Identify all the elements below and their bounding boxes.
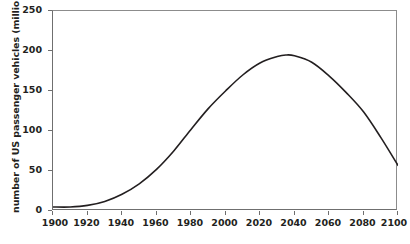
x-tick-2020 <box>259 211 260 215</box>
x-tick-label-2040: 2040 <box>280 218 306 228</box>
x-tick-2060 <box>328 211 329 215</box>
plot-area <box>52 10 397 210</box>
x-tick-label-2100: 2100 <box>381 218 407 228</box>
x-tick-2040 <box>294 211 295 215</box>
x-tick-1920 <box>87 211 88 215</box>
x-tick-label-1900: 1900 <box>42 218 68 228</box>
x-tick-label-1980: 1980 <box>177 218 203 228</box>
x-tick-label-2080: 2080 <box>349 218 375 228</box>
x-tick-1900 <box>52 211 53 215</box>
x-tick-label-1920: 1920 <box>73 218 99 228</box>
x-tick-label-2000: 2000 <box>211 218 237 228</box>
x-tick-label-1960: 1960 <box>142 218 168 228</box>
x-tick-2100 <box>397 211 398 215</box>
x-tick-label-2020: 2020 <box>246 218 272 228</box>
x-tick-2080 <box>363 211 364 215</box>
x-tick-label-1940: 1940 <box>108 218 134 228</box>
x-tick-1980 <box>190 211 191 215</box>
x-tick-label-2060: 2060 <box>315 218 341 228</box>
x-tick-1960 <box>156 211 157 215</box>
x-tick-1940 <box>121 211 122 215</box>
line-chart: number of US passenger vehicles (million… <box>0 0 410 244</box>
x-tick-2000 <box>225 211 226 215</box>
data-curve <box>53 11 398 211</box>
series-line <box>53 55 398 207</box>
